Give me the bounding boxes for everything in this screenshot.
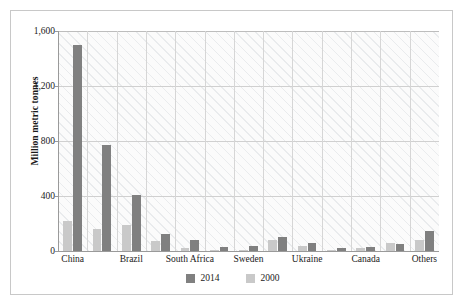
bar-2000 <box>386 243 395 251</box>
legend-swatch-icon <box>246 274 255 283</box>
bar-group <box>87 31 116 251</box>
bar-2000 <box>93 229 102 251</box>
bar-2000 <box>122 225 131 251</box>
bar-2000 <box>151 241 160 251</box>
x-axis-tick-label: Others <box>412 254 437 264</box>
x-axis-line <box>58 251 439 252</box>
bar-group <box>292 31 321 251</box>
bar-group <box>117 31 146 251</box>
bar-2014 <box>278 237 287 251</box>
bar-group <box>410 31 439 251</box>
bar-group <box>146 31 175 251</box>
y-axis-tick-label: 800 <box>13 136 55 146</box>
legend-label: 2000 <box>261 273 280 283</box>
bar-group <box>380 31 409 251</box>
x-axis-tick-label: Ukraine <box>292 254 323 264</box>
legend-label: 2014 <box>201 273 220 283</box>
bar-2000 <box>415 240 424 251</box>
bar-group <box>234 31 263 251</box>
chart-figure: Million metric tonnes 04008001,2001,600 … <box>10 10 453 295</box>
x-axis-tick-label: China <box>61 254 84 264</box>
bar-2014 <box>425 231 434 251</box>
x-axis-tick-label: Canada <box>351 254 380 264</box>
bar-group <box>58 31 87 251</box>
x-axis-tick-label: South Africa <box>166 254 214 264</box>
bar-2014 <box>102 145 111 251</box>
bar-2014 <box>161 234 170 251</box>
bar-2014 <box>73 45 82 251</box>
bar-group <box>322 31 351 251</box>
legend-swatch-icon <box>186 274 195 283</box>
bar-group <box>175 31 204 251</box>
x-axis-tick-labels: ChinaBrazilSouth AfricaSwedenUkraineCana… <box>58 253 439 271</box>
y-axis-line <box>58 31 59 252</box>
bar-group <box>263 31 292 251</box>
bar-group <box>351 31 380 251</box>
bar-2014 <box>190 240 199 251</box>
bar-group <box>205 31 234 251</box>
legend-item: 2014 <box>186 273 220 283</box>
x-axis-tick-label: Sweden <box>233 254 263 264</box>
y-axis-tick-label: 1,600 <box>13 26 55 36</box>
chart-legend: 20142000 <box>11 273 454 283</box>
bar-2014 <box>132 195 141 251</box>
y-axis-tick-label: 400 <box>13 191 55 201</box>
y-axis-tick-label: 1,200 <box>13 81 55 91</box>
bar-2014 <box>308 243 317 251</box>
y-axis-tick-labels: 04008001,2001,600 <box>11 11 55 296</box>
plot-area <box>58 31 439 251</box>
bar-2014 <box>396 244 405 251</box>
bar-2000 <box>63 221 72 251</box>
bar-2000 <box>268 240 277 251</box>
y-axis-tick-label: 0 <box>13 246 55 256</box>
legend-item: 2000 <box>246 273 280 283</box>
x-axis-tick-label: Brazil <box>120 254 143 264</box>
